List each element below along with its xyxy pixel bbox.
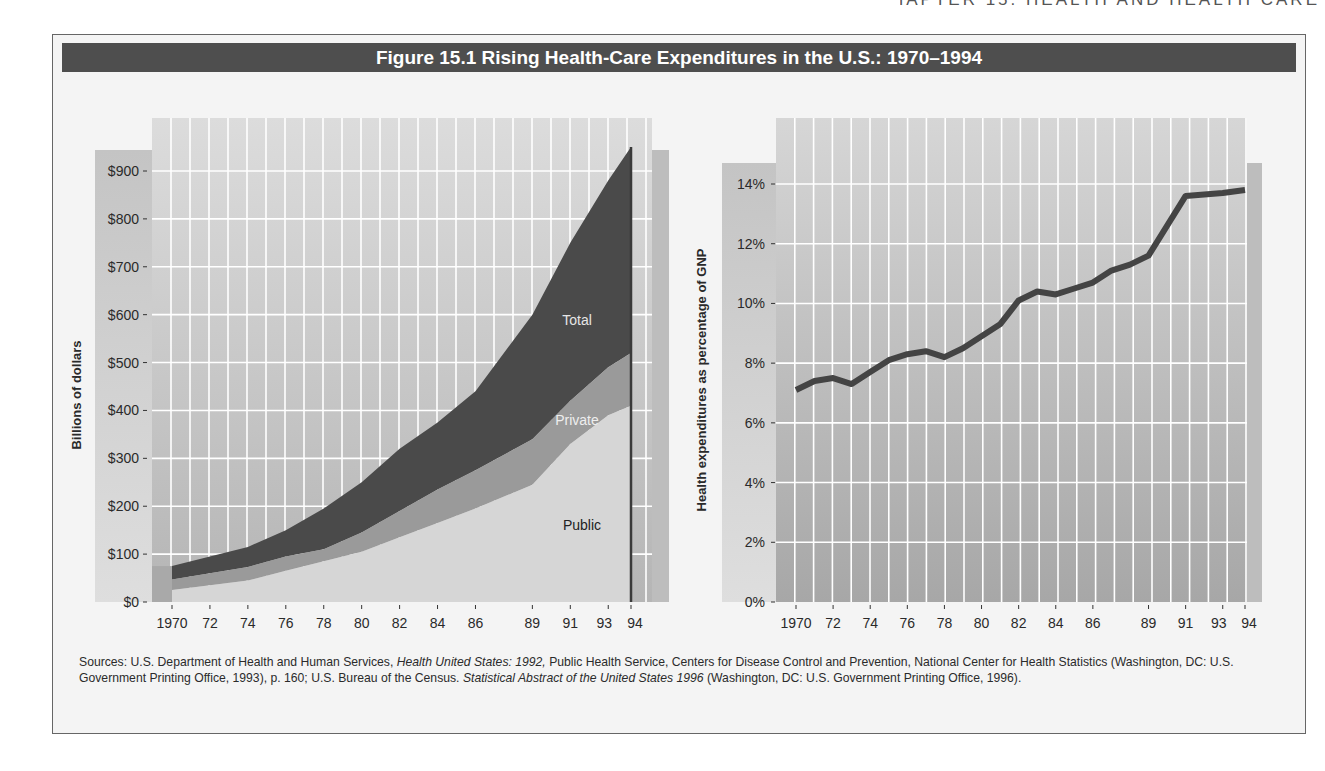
right-y-axis-label: Health expenditures as percentage of GNP bbox=[694, 248, 709, 511]
left-y-tick: $700 bbox=[108, 259, 139, 275]
right-y-tick: 12% bbox=[737, 236, 765, 252]
label-public: Public bbox=[563, 517, 601, 533]
left-y-tick: $400 bbox=[108, 402, 139, 418]
sources-title-1: Health United States: 1992, bbox=[397, 655, 546, 669]
sources-title-2: Statistical Abstract of the United State… bbox=[463, 671, 704, 685]
left-x-tick: 72 bbox=[202, 615, 218, 631]
right-x-tick: 82 bbox=[1011, 615, 1027, 631]
label-private: Private bbox=[555, 412, 599, 428]
left-y-tick: $100 bbox=[108, 546, 139, 562]
right-y-tick: 8% bbox=[745, 355, 765, 371]
left-y-tick: $0 bbox=[123, 594, 139, 610]
right-y-tick: 6% bbox=[745, 415, 765, 431]
sources-prefix: Sources: U.S. Department of Health and H… bbox=[79, 655, 397, 669]
right-y-tick: 2% bbox=[745, 534, 765, 550]
left-x-tick: 89 bbox=[525, 615, 541, 631]
left-y-tick: $300 bbox=[108, 450, 139, 466]
left-right-band bbox=[652, 150, 669, 602]
right-x-tick: 76 bbox=[900, 615, 916, 631]
right-x-tick: 1970 bbox=[780, 615, 811, 631]
left-y-tick: $200 bbox=[108, 498, 139, 514]
left-y-tick: $500 bbox=[108, 355, 139, 371]
left-x-tick: 80 bbox=[354, 615, 370, 631]
right-x-tick: 72 bbox=[825, 615, 841, 631]
left-x-tick: 91 bbox=[563, 615, 579, 631]
left-x-tick: 93 bbox=[596, 615, 612, 631]
right-x-tick: 84 bbox=[1048, 615, 1064, 631]
figure-sources: Sources: U.S. Department of Health and H… bbox=[79, 654, 1259, 686]
right-x-tick: 89 bbox=[1141, 615, 1157, 631]
left-x-tick: 1970 bbox=[156, 615, 187, 631]
left-y-axis-label: Billions of dollars bbox=[69, 340, 84, 449]
right-x-tick: 86 bbox=[1085, 615, 1101, 631]
left-x-tick: 76 bbox=[278, 615, 294, 631]
right-x-tick: 78 bbox=[937, 615, 953, 631]
right-x-tick: 80 bbox=[974, 615, 990, 631]
left-x-tick: 78 bbox=[316, 615, 332, 631]
right-x-tick: 94 bbox=[1241, 615, 1257, 631]
right-y-tick: 0% bbox=[745, 594, 765, 610]
left-x-tick: 82 bbox=[392, 615, 408, 631]
right-right-band bbox=[1247, 163, 1262, 602]
right-y-tick: 14% bbox=[737, 176, 765, 192]
right-plot-area bbox=[776, 118, 1247, 602]
right-x-tick: 91 bbox=[1178, 615, 1194, 631]
label-total: Total bbox=[562, 312, 592, 328]
left-y-tick: $900 bbox=[108, 163, 139, 179]
left-y-tick: $800 bbox=[108, 211, 139, 227]
sources-suffix: (Washington, DC: U.S. Government Printin… bbox=[704, 671, 1022, 685]
right-y-tick: 10% bbox=[737, 295, 765, 311]
right-chart: 0%2%4%6%8%10%12%14%197072747678808284868… bbox=[694, 118, 1262, 631]
right-x-tick: 93 bbox=[1211, 615, 1227, 631]
right-y-tick: 4% bbox=[745, 475, 765, 491]
left-chart: $0$100$200$300$400$500$600$700$800$90019… bbox=[69, 118, 669, 631]
left-x-tick: 86 bbox=[468, 615, 484, 631]
left-y-tick: $600 bbox=[108, 307, 139, 323]
left-x-tick: 74 bbox=[240, 615, 256, 631]
left-x-tick: 84 bbox=[430, 615, 446, 631]
right-x-tick: 74 bbox=[862, 615, 878, 631]
left-x-tick: 94 bbox=[627, 615, 643, 631]
